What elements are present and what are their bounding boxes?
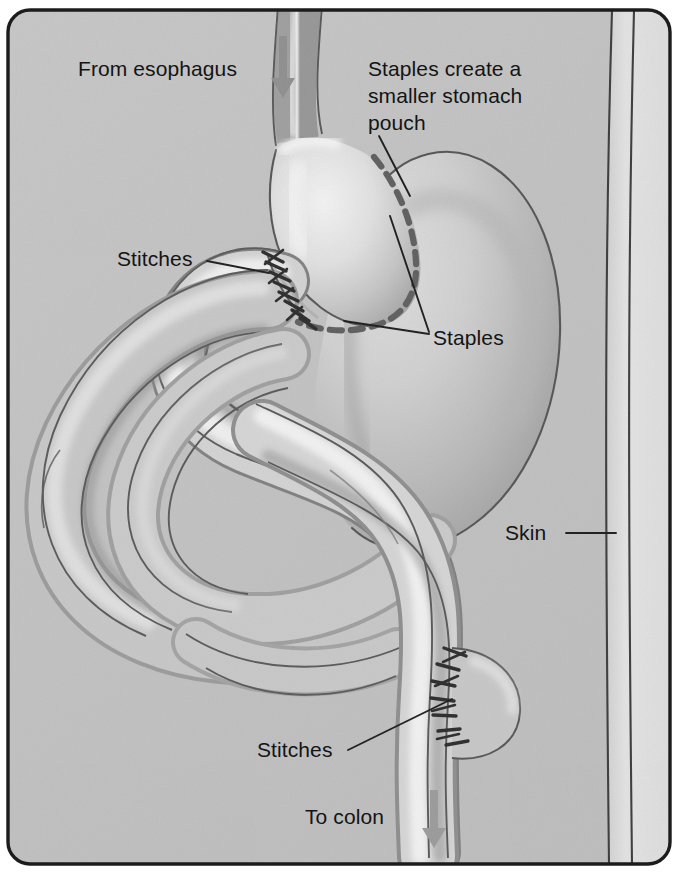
paper-grain bbox=[0, 0, 678, 874]
label-staples-create-pouch: Staples create a smaller stomach pouch bbox=[368, 55, 522, 136]
illustration-stage: From esophagus Staples create a smaller … bbox=[0, 0, 678, 874]
anatomy-illustration bbox=[0, 0, 678, 874]
label-stitches-bottom: Stitches bbox=[257, 736, 333, 763]
label-from-esophagus: From esophagus bbox=[78, 55, 237, 82]
label-stitches-top: Stitches bbox=[117, 245, 193, 272]
figure-canvas bbox=[0, 0, 678, 874]
label-staples: Staples bbox=[433, 324, 504, 351]
label-skin: Skin bbox=[505, 519, 546, 546]
label-to-colon: To colon bbox=[305, 803, 384, 830]
